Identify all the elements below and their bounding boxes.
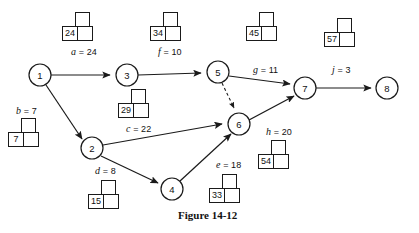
value-widget-f: 34 (150, 12, 192, 42)
edge-label-g-value: = 11 (258, 65, 278, 75)
value-widget-d: 15 (88, 180, 130, 210)
value-widget-g: 45 (246, 12, 288, 42)
node-2-label: 2 (89, 143, 94, 154)
figure-caption: Figure 14-12 (178, 209, 237, 221)
edge-label-f: f = 10 (158, 46, 182, 57)
widget-cell-bottom-right (339, 32, 355, 47)
node-4-label: 4 (169, 184, 174, 195)
edge-label-a: a = 24 (71, 46, 97, 57)
value-widget-h: 54 (258, 140, 300, 170)
edge-label-e-value: = 18 (221, 160, 242, 170)
edge-6-7 (249, 96, 294, 120)
widget-cell-bottom-right (165, 26, 181, 41)
edge-label-d: d = 8 (95, 165, 116, 176)
edge-label-c-value: = 22 (131, 124, 152, 134)
widget-value-e: 33 (209, 188, 225, 203)
node-6-label: 6 (236, 119, 241, 130)
widget-cell-top (222, 174, 237, 189)
widget-cell-top (21, 118, 36, 133)
widget-value-j: 57 (324, 32, 340, 47)
widget-value-f: 34 (150, 26, 166, 41)
widget-value-c: 29 (118, 103, 134, 118)
widget-cell-bottom-right (103, 194, 119, 209)
node-1-label: 1 (37, 70, 42, 81)
value-widget-b: 7 (8, 118, 50, 148)
widget-cell-bottom-right (273, 154, 289, 169)
widget-cell-bottom-right (77, 26, 93, 41)
widget-cell-bottom-right (224, 188, 240, 203)
figure-14-12: 1 2 3 4 5 6 7 8 a = 24 b = 7 f = 10 c = … (0, 0, 419, 233)
value-widget-j: 57 (324, 18, 366, 48)
edge-1-2 (46, 85, 82, 139)
node-7-label: 7 (302, 83, 307, 94)
edge-label-b: b = 7 (16, 105, 37, 116)
widget-value-a: 24 (62, 26, 78, 41)
node-5-label: 5 (215, 67, 220, 78)
node-8-label: 8 (384, 83, 389, 94)
edge-label-j-value: = 3 (335, 65, 351, 75)
widget-cell-top (337, 18, 352, 33)
widget-cell-top (259, 12, 274, 27)
value-widget-c: 29 (118, 89, 160, 119)
widget-cell-bottom-right (23, 132, 39, 147)
widget-value-h: 54 (258, 154, 274, 169)
value-widget-a: 24 (62, 12, 104, 42)
widget-cell-top (163, 12, 178, 27)
edge-5-7 (229, 76, 290, 84)
edge-label-d-value: = 8 (100, 166, 116, 176)
widget-value-b: 7 (8, 132, 24, 147)
edge-label-c: c = 22 (126, 123, 151, 134)
edge-label-h-value: = 20 (271, 127, 292, 137)
widget-cell-bottom-right (133, 103, 149, 118)
value-widget-e: 33 (209, 174, 251, 204)
widget-value-g: 45 (246, 26, 262, 41)
edge-3-5 (138, 73, 201, 75)
widget-value-d: 15 (88, 194, 104, 209)
edge-label-g: g = 11 (253, 64, 278, 75)
edge-label-a-value: = 24 (76, 47, 97, 57)
widget-cell-top (75, 12, 90, 27)
widget-cell-bottom-right (261, 26, 277, 41)
edge-2-6 (103, 124, 222, 145)
edge-label-f-value: = 10 (161, 47, 182, 57)
widget-cell-top (101, 180, 116, 195)
edge-5-6-dummy (222, 83, 234, 108)
edge-label-h: h = 20 (266, 126, 292, 137)
edge-label-e: e = 18 (216, 159, 241, 170)
node-3-label: 3 (124, 70, 129, 81)
edge-label-b-value: = 7 (21, 106, 37, 116)
widget-cell-top (271, 140, 286, 155)
edge-label-j: j = 3 (332, 64, 351, 75)
widget-cell-top (131, 89, 146, 104)
